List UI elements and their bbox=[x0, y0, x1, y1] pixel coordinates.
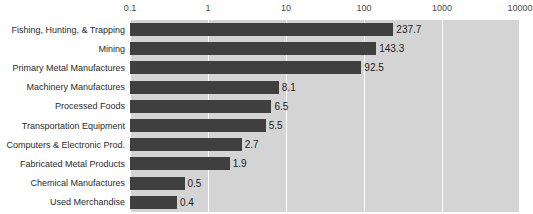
bar-value-label: 1.9 bbox=[230, 157, 247, 170]
bar bbox=[130, 196, 177, 209]
bar-row: 1.9 bbox=[130, 154, 520, 173]
bar-row: 2.7 bbox=[130, 135, 520, 154]
x-tick-label: 1000 bbox=[432, 3, 452, 13]
bar-value-label: 0.4 bbox=[177, 196, 194, 209]
category-label: Mining bbox=[0, 44, 125, 54]
x-tick-label: 10 bbox=[281, 3, 291, 13]
category-label: Computers & Electronic Prod. bbox=[0, 140, 125, 150]
bar bbox=[130, 81, 279, 94]
bar-value-label: 6.5 bbox=[271, 100, 288, 113]
x-tick-label: 100 bbox=[356, 3, 371, 13]
x-tick-label: 1 bbox=[205, 3, 210, 13]
bar bbox=[130, 119, 266, 132]
bar-row: 237.7 bbox=[130, 20, 520, 39]
bar-row: 0.5 bbox=[130, 174, 520, 193]
x-tick-label: 10000 bbox=[507, 3, 532, 13]
category-axis-labels: Fishing, Hunting, & TrappingMiningPrimar… bbox=[0, 20, 128, 212]
x-tick-label: 0.1 bbox=[124, 3, 137, 13]
category-label: Transportation Equipment bbox=[0, 121, 125, 131]
bar-value-label: 92.5 bbox=[361, 61, 383, 74]
bar-row: 92.5 bbox=[130, 58, 520, 77]
category-label: Primary Metal Manufactures bbox=[0, 63, 125, 73]
bar-value-label: 2.7 bbox=[242, 138, 259, 151]
bar-row: 6.5 bbox=[130, 97, 520, 116]
category-label: Used Merchandise bbox=[0, 197, 125, 207]
bar bbox=[130, 23, 393, 36]
category-label: Machinery Manufactures bbox=[0, 82, 125, 92]
bar-row: 0.4 bbox=[130, 193, 520, 212]
bar bbox=[130, 138, 242, 151]
category-label: Chemical Manufactures bbox=[0, 178, 125, 188]
bar-row: 143.3 bbox=[130, 39, 520, 58]
bar bbox=[130, 42, 376, 55]
bar-row: 5.5 bbox=[130, 116, 520, 135]
bar bbox=[130, 157, 230, 170]
bar-value-label: 0.5 bbox=[185, 177, 202, 190]
bar-value-label: 143.3 bbox=[376, 42, 404, 55]
plot-area: 237.7143.392.58.16.55.52.71.90.50.4 bbox=[130, 20, 520, 212]
x-axis-top: 0.1110100100010000 bbox=[0, 0, 525, 20]
category-label: Processed Foods bbox=[0, 101, 125, 111]
bar-value-label: 237.7 bbox=[393, 23, 421, 36]
bar bbox=[130, 177, 185, 190]
category-label: Fabricated Metal Products bbox=[0, 159, 125, 169]
bar-value-label: 8.1 bbox=[279, 81, 296, 94]
bar bbox=[130, 61, 361, 74]
category-label: Fishing, Hunting, & Trapping bbox=[0, 25, 125, 35]
bar-row: 8.1 bbox=[130, 78, 520, 97]
bar bbox=[130, 100, 271, 113]
bar-value-label: 5.5 bbox=[266, 119, 283, 132]
